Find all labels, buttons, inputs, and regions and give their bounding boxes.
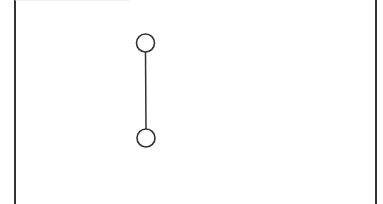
bottom-node-circle [137, 129, 155, 147]
diagram-canvas [0, 0, 383, 204]
top-node-circle [137, 34, 155, 52]
connector-line [146, 52, 147, 129]
